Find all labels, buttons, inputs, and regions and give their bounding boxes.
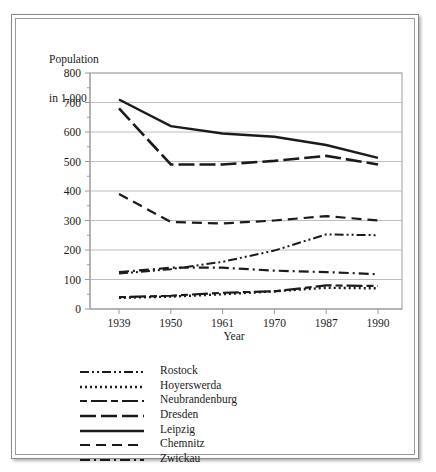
y-tick-label-800: 800 (64, 67, 82, 79)
legend-line-sample-chemnitz (78, 439, 146, 451)
x-tick-label-1970: 1970 (263, 317, 286, 329)
y-axis: 0100200300400500600700800 (64, 67, 90, 315)
legend-item-neubrandenburg[interactable]: Neubrandenburg (78, 392, 348, 407)
legend-key-zwickau (78, 452, 146, 464)
legend-item-dresden[interactable]: Dresden (78, 407, 348, 422)
chart-legend: RostockHoyerswerdaNeubrandenburgDresdenL… (78, 363, 348, 465)
figure-inner-border: Population in 1,000 01002003004005006007… (15, 18, 415, 455)
legend-key-rostock (78, 364, 146, 376)
legend-item-hoyerswerda[interactable]: Hoyerswerda (78, 378, 348, 393)
legend-item-chemnitz[interactable]: Chemnitz (78, 436, 348, 451)
x-tick-label-1990: 1990 (367, 317, 390, 329)
legend-label-neubrandenburg: Neubrandenburg (154, 393, 237, 405)
y-tick-label-300: 300 (64, 215, 82, 227)
x-tick-label-1950: 1950 (159, 317, 182, 329)
legend-label-chemnitz: Chemnitz (154, 437, 205, 449)
legend-line-sample-neubrandenburg (78, 395, 146, 407)
legend-key-hoyerswerda (78, 379, 146, 391)
legend-key-leipzig (78, 423, 146, 435)
x-tick-label-1939: 1939 (108, 317, 131, 329)
y-tick-label-600: 600 (64, 126, 82, 138)
legend-key-neubrandenburg (78, 393, 146, 405)
y-tick-label-200: 200 (64, 244, 82, 256)
y-tick-label-400: 400 (64, 185, 82, 197)
legend-label-rostock: Rostock (154, 364, 198, 376)
legend-line-sample-zwickau (78, 454, 146, 466)
x-tick-label-1961: 1961 (211, 317, 234, 329)
legend-label-hoyerswerda: Hoyerswerda (154, 379, 221, 391)
legend-line-sample-hoyerswerda (78, 381, 146, 393)
y-tick-label-700: 700 (64, 97, 82, 109)
legend-label-dresden: Dresden (154, 408, 198, 420)
x-tick-label-1987: 1987 (315, 317, 338, 329)
legend-label-leipzig: Leipzig (154, 423, 195, 435)
legend-line-sample-leipzig (78, 425, 146, 437)
legend-item-rostock[interactable]: Rostock (78, 363, 348, 378)
y-tick-label-100: 100 (64, 274, 82, 286)
legend-item-zwickau[interactable]: Zwickau (78, 451, 348, 466)
y-tick-label-500: 500 (64, 156, 82, 168)
legend-line-sample-dresden (78, 410, 146, 422)
legend-key-dresden (78, 408, 146, 420)
legend-item-leipzig[interactable]: Leipzig (78, 421, 348, 436)
x-axis-label: Year (223, 330, 244, 342)
legend-key-chemnitz (78, 437, 146, 449)
x-axis: 193919501961197019871990 (90, 309, 402, 329)
legend-label-zwickau: Zwickau (154, 452, 200, 464)
figure-frame: Population in 1,000 01002003004005006007… (11, 14, 419, 459)
y-tick-label-0: 0 (75, 303, 81, 315)
legend-line-sample-rostock (78, 366, 146, 378)
